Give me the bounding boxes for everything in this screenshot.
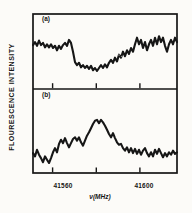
scan-artifact bbox=[118, 54, 120, 56]
spectrum-trace-b bbox=[33, 120, 177, 163]
scan-artifact bbox=[121, 56, 122, 57]
spectra-figure: FLOURESCENCE INTENSITY (a) (b) 41560 416… bbox=[0, 0, 192, 213]
y-axis-label: FLOURESCENCE INTENSITY bbox=[8, 17, 18, 177]
panel-a-label: (a) bbox=[42, 15, 50, 22]
spectrum-trace-a bbox=[33, 36, 177, 71]
x-tick-label-41560: 41560 bbox=[45, 182, 81, 189]
x-axis-title: ν(MHz) bbox=[70, 193, 130, 200]
plot-canvas bbox=[0, 0, 192, 213]
panel-b-label: (b) bbox=[42, 91, 50, 98]
x-tick-label-41600: 41600 bbox=[126, 182, 162, 189]
